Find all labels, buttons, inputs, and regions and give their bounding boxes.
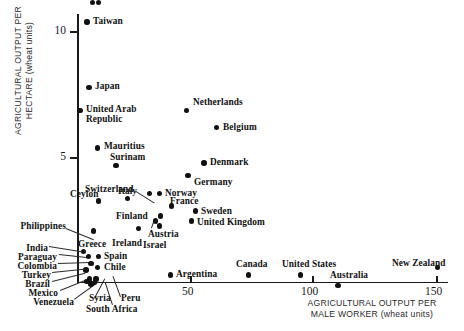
x-axis-title-line-1: AGRICULTURAL OUTPUT PER	[292, 298, 452, 309]
data-point-norway[interactable]	[157, 191, 162, 196]
data-point-sweden[interactable]	[193, 208, 198, 213]
label-peru: Peru	[121, 293, 141, 303]
data-point-australia[interactable]	[335, 283, 340, 288]
label-united-states: United States	[282, 259, 336, 269]
data-point-ireland[interactable]	[136, 226, 141, 231]
label-ireland: Ireland	[112, 238, 142, 248]
data-point-surinam[interactable]	[113, 163, 118, 168]
data-point-greece[interactable]	[96, 0, 101, 5]
label-germany: Germany	[194, 177, 232, 187]
label-ceylon: Ceylon	[70, 189, 99, 199]
data-point-switzerland[interactable]	[147, 191, 152, 196]
data-point-argentina[interactable]	[168, 272, 173, 277]
data-point-denmark[interactable]	[201, 160, 206, 165]
label-greece: Greece	[78, 239, 106, 249]
label-south-africa: South Africa	[86, 304, 138, 314]
x-tick-label-50: 50	[182, 285, 194, 297]
label-taiwan: Taiwan	[93, 16, 123, 26]
x-tick-100	[312, 276, 314, 282]
label-philippines: Philippines	[0, 221, 66, 231]
x-tick-label-150: 150	[425, 285, 442, 297]
data-point-mauritius[interactable]	[95, 145, 100, 150]
data-point-italy[interactable]	[125, 196, 130, 201]
label-uar-line-1: United Arab	[86, 104, 136, 114]
data-point-turkey[interactable]	[83, 267, 88, 272]
label-venezuela: Venezuela	[0, 297, 74, 307]
y-axis-title: AGRICULTURAL OUTPUT PER HECTARE (wheat u…	[13, 0, 34, 146]
x-axis-title-line-2: MALE WORKER (wheat units)	[292, 309, 452, 320]
data-point-finland[interactable]	[158, 213, 163, 218]
data-point-israel[interactable]	[157, 223, 162, 228]
data-point-chile[interactable]	[95, 265, 100, 270]
x-tick-label-100: 100	[301, 285, 318, 297]
x-axis-title: AGRICULTURAL OUTPUT PER MALE WORKER (whe…	[292, 298, 452, 319]
data-point-taiwan[interactable]	[84, 19, 89, 24]
data-point-united-states[interactable]	[298, 272, 303, 277]
label-spain: Spain	[104, 251, 127, 261]
label-syria: Syria	[89, 293, 111, 303]
label-japan: Japan	[95, 81, 120, 91]
data-point-canada[interactable]	[246, 272, 251, 277]
y-tick-5	[70, 157, 77, 159]
data-point-south-africa[interactable]	[92, 280, 97, 285]
data-point-paraguay[interactable]	[86, 254, 91, 259]
label-chile: Chile	[104, 262, 126, 272]
label-israel: Israel	[143, 240, 166, 250]
label-canada: Canada	[236, 259, 268, 269]
label-denmark: Denmark	[210, 157, 248, 167]
label-uar: United Arab Republic	[86, 104, 136, 124]
label-new-zealand: New Zealand	[392, 258, 446, 268]
leader-brazil	[52, 273, 85, 282]
label-australia: Australia	[330, 270, 368, 280]
leader-colombia	[58, 262, 90, 264]
label-surinam: Surinam	[110, 152, 145, 162]
x-axis-line	[77, 282, 448, 284]
x-tick-150	[436, 276, 438, 282]
data-point-netherlands[interactable]	[184, 108, 189, 113]
label-finland: Finland	[116, 211, 148, 221]
label-france: France	[170, 196, 198, 206]
label-belgium: Belgium	[223, 122, 257, 132]
data-point-colombia[interactable]	[88, 261, 93, 266]
leader-paraguay	[59, 254, 89, 258]
scatter-plot-canvas: 10 5 50 100 150 AGRICULTURAL OUTPUT PER …	[0, 0, 464, 331]
y-tick-label-5: 5	[44, 150, 66, 162]
data-point-germany[interactable]	[185, 173, 190, 178]
data-point-belgium[interactable]	[214, 125, 219, 130]
label-netherlands: Netherlands	[193, 97, 243, 107]
data-point-united-kingdom[interactable]	[189, 218, 194, 223]
label-italy: Italy	[118, 186, 137, 196]
data-point-brazil[interactable]	[90, 0, 95, 5]
data-point-spain[interactable]	[96, 254, 101, 259]
y-tick-label-10: 10	[44, 24, 66, 36]
data-point-india[interactable]	[81, 249, 86, 254]
label-argentina: Argentina	[176, 269, 217, 279]
leader-peru	[112, 276, 120, 297]
data-point-japan[interactable]	[86, 85, 91, 90]
data-point-uar[interactable]	[77, 108, 82, 113]
label-austria: Austria	[148, 229, 179, 239]
label-mauritius: Mauritius	[104, 141, 145, 151]
label-united-kingdom: United Kingdom	[197, 217, 265, 227]
y-tick-10	[70, 31, 77, 33]
label-sweden: Sweden	[201, 206, 232, 216]
data-point-philippines[interactable]	[91, 228, 96, 233]
label-uar-line-2: Republic	[86, 114, 136, 124]
